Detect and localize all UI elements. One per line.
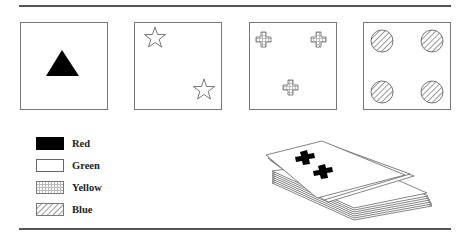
- legend-label: Green: [72, 160, 100, 171]
- star-icon: [135, 23, 223, 111]
- legend-yellow: Yellow: [36, 180, 102, 194]
- legend-label: Yellow: [72, 182, 102, 193]
- legend-blue: Blue: [36, 202, 92, 216]
- legend-label: Red: [72, 138, 90, 149]
- triangle-icon: [21, 23, 109, 111]
- card-yellow-crosses: [249, 22, 337, 110]
- legend-label: Blue: [72, 204, 92, 215]
- card-red-triangle: [20, 22, 108, 110]
- card-deck-icon: [262, 130, 442, 225]
- dotted-swatch-icon: [36, 181, 64, 194]
- solid-swatch-icon: [36, 137, 64, 150]
- white-swatch-icon: [36, 159, 64, 172]
- cross-icon: [250, 23, 338, 111]
- card-blue-circles: [363, 22, 451, 110]
- card-green-stars: [134, 22, 222, 110]
- circle-icon: [364, 23, 452, 111]
- top-rule: [19, 5, 451, 7]
- legend-green: Green: [36, 158, 100, 172]
- bottom-rule: [19, 228, 451, 230]
- hatched-swatch-icon: [36, 203, 64, 216]
- legend-red: Red: [36, 136, 90, 150]
